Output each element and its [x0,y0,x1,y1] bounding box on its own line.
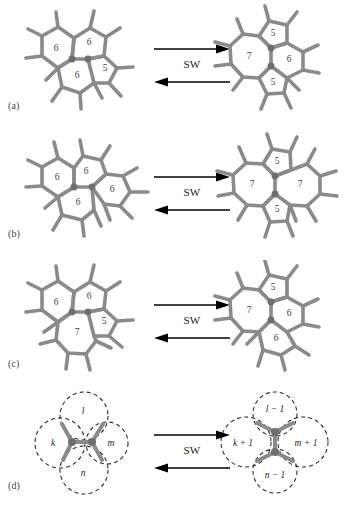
vertex-bottom [268,317,275,324]
vertex-bottom [272,191,279,198]
vertex-bottom [271,448,279,456]
ring-label-bottom: n − 1 [265,470,286,480]
ring-label-bottom: 7 [75,327,80,337]
ring-label-left: 7 [247,305,252,315]
ring-label-bottom: 6 [76,197,81,207]
ring-label-right: 5 [103,63,108,73]
vertex-left [69,56,76,63]
vertex-right [89,184,96,191]
reverse-arrow-head [154,206,168,215]
ring-label-top: 5 [275,156,280,166]
reverse-arrow-head [154,334,168,343]
vertex-left [68,438,76,446]
panel-b-label: (b) [8,228,20,239]
ring-label-top: 6 [87,37,92,47]
ring-label-left: 6 [55,172,60,182]
ring-label-left: 6 [54,43,59,53]
vertex-bottom [268,63,275,70]
ring-label-top: 6 [84,166,89,176]
panel-a: (a) [0,0,345,128]
vertex-right [88,438,96,446]
vertex-right [85,56,92,63]
ring-label-right: m + 1 [295,438,318,448]
panel-d-left-structure: l k m n [22,390,142,502]
ring-label-top: l − 1 [266,404,285,414]
vertex-left [69,309,76,316]
ring-label-left: 7 [247,51,252,61]
ring-label-right: 6 [287,308,292,318]
ring-label-top: 5 [271,28,276,38]
vertex-left [71,184,78,191]
ring-label-right: 6 [287,54,292,64]
panel-a-label: (a) [8,100,19,111]
panel-c: (c) [0,256,345,386]
stone-wales-transformation-figure: (a) [0,0,345,509]
ring-label-top: 6 [87,291,92,301]
panel-d: (d) l [0,386,345,509]
ring-label-right: 7 [298,179,303,189]
panel-b: (b) [0,128,345,256]
panel-c-right-structure: 5 7 6 6 [213,260,337,382]
vertex-top [271,428,279,436]
vertex-top [268,45,275,52]
ring-label-bottom: 5 [271,77,276,87]
ring-label-right: m [108,438,115,448]
panel-d-right-structure: l − 1 k + 1 m + 1 n − 1 [213,390,335,502]
panel-c-label: (c) [8,358,19,369]
reverse-arrow-head [154,464,168,473]
vertex-top [272,173,279,180]
ring-label-top: 5 [271,282,276,292]
panel-a-right-structure: 5 7 6 5 [213,4,335,120]
panel-b-left-structure: 6 6 6 6 [22,132,152,248]
ring-label-bottom: 6 [274,333,279,343]
ring-label-left: k + 1 [233,438,253,448]
vertex-top [268,299,275,306]
ring-label-bottom: 5 [275,204,280,214]
vertex-right [85,309,92,316]
panel-c-left-structure: 6 6 5 7 [22,260,144,380]
ring-label-bottom: 6 [75,70,80,80]
panel-d-label: (d) [8,480,20,491]
ring-label-top: l [82,406,85,416]
ring-label-right: 6 [110,184,115,194]
panel-b-right-structure: 5 7 7 5 [213,132,341,248]
ring-label-left: 6 [54,297,59,307]
ring-label-left: 7 [250,179,255,189]
ring-label-right: 5 [102,316,107,326]
reverse-arrow-head [154,78,168,87]
panel-a-left-structure: 6 6 5 6 [22,4,142,120]
ring-label-bottom: n [81,468,86,478]
ring-label-left: k [51,438,56,448]
